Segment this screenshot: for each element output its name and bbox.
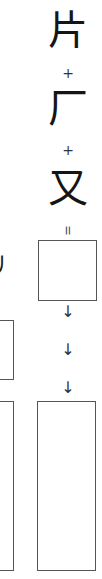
left-tall-box xyxy=(0,401,14,571)
plus-sign-2: + xyxy=(38,143,98,157)
down-arrow-icon: ↓ xyxy=(38,380,98,396)
left-partial-stroke: 丿 xyxy=(0,255,6,277)
plus-sign-1: + xyxy=(38,66,98,80)
component-han: 厂 xyxy=(38,88,98,128)
down-arrow-icon: ↓ xyxy=(38,342,98,358)
down-arrow-icon: ↓ xyxy=(38,304,98,320)
left-answer-box xyxy=(0,320,14,380)
answer-box[interactable] xyxy=(38,240,97,301)
component-pian: 片 xyxy=(38,10,98,50)
tall-answer-box[interactable] xyxy=(37,401,96,571)
